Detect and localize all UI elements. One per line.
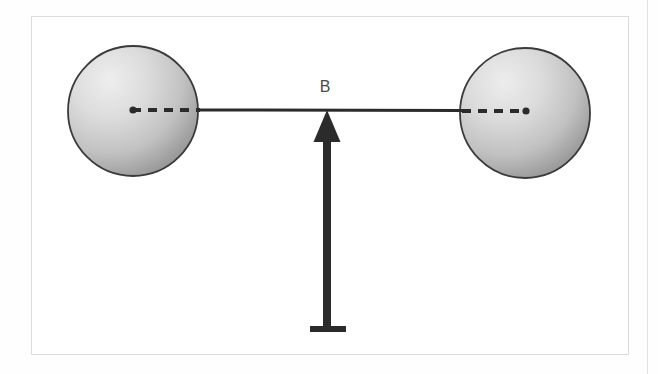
vector-label-B: B <box>304 78 346 96</box>
center-dot-right-icon <box>522 107 529 114</box>
center-dot-left-icon <box>129 106 136 113</box>
arrow-shaft <box>323 130 331 330</box>
connecting-axis-line <box>196 110 464 111</box>
figure-page: B <box>0 0 658 374</box>
force-vector-arrow-B <box>310 110 346 332</box>
arrow-base-bar <box>310 326 346 332</box>
figure-drawing-canvas <box>0 0 658 374</box>
arrow-head-icon <box>314 110 341 142</box>
